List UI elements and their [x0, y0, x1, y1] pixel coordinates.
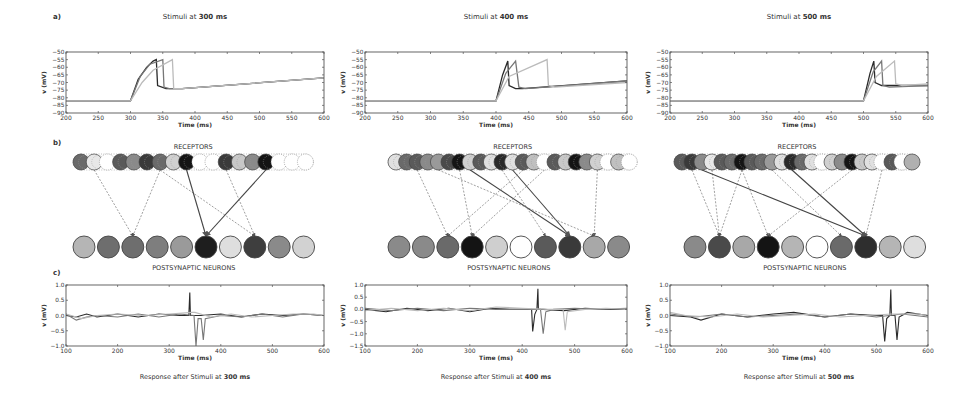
y-tick-label: −65 [656, 72, 669, 78]
figure: a) b) c) Stimuli at 300 ms20025030035040… [0, 0, 971, 404]
synapse-connection [94, 170, 133, 236]
x-tick-label: 300 [425, 114, 437, 121]
y-tick-label: −65 [351, 72, 364, 78]
y-tick-label: −80 [351, 95, 364, 101]
x-tick-label: 400 [793, 114, 805, 121]
y-tick-label: −90 [52, 110, 65, 116]
x-tick-label: 350 [157, 114, 169, 121]
x-tick-label: 600 [621, 347, 633, 354]
y-tick-label: −85 [52, 102, 65, 108]
y-tick-label: 1.0 [55, 282, 65, 288]
x-tick-label: 500 [254, 114, 266, 121]
synapse-connection [513, 170, 570, 236]
synapse-connection [133, 170, 160, 236]
y-tick-label: −1.0 [349, 331, 363, 337]
y-tick-label: −80 [656, 95, 669, 101]
series-line [670, 61, 928, 101]
chart-c1: 1002003004005006001.00.50.0−0.5−1.0Time … [40, 282, 330, 381]
postsynaptic-neuron [268, 236, 290, 258]
x-tick-label: 600 [318, 347, 330, 354]
synapse-connection [594, 170, 597, 236]
charts-layer: Stimuli at 300 ms20025030035040045050055… [40, 13, 934, 381]
x-tick-label: 200 [716, 347, 728, 354]
x-tick-label: 500 [556, 114, 568, 121]
y-tick-label: 0.5 [354, 294, 364, 300]
chart-caption: Response after Stimuli at 300 ms [140, 373, 251, 381]
receptors-label: RECEPTORS [174, 143, 213, 151]
synapse-connection [712, 170, 719, 236]
receptor [297, 154, 313, 170]
synapse-connection [792, 170, 866, 236]
chart-a3: Stimuli at 500 ms20025030035040045050055… [644, 13, 934, 128]
postsynaptic-neuron [583, 236, 605, 258]
postsynaptic-neuron [879, 236, 901, 258]
postsynaptic-neuron [146, 236, 168, 258]
y-tick-label: −55 [351, 57, 364, 63]
postsynaptic-neuron [782, 236, 804, 258]
postsynaptic-neuron [904, 236, 926, 258]
postsynaptic-neuron [293, 236, 315, 258]
axes-frame [66, 52, 324, 113]
y-tick-label: −1.0 [50, 343, 64, 349]
x-tick-label: 400 [516, 347, 528, 354]
x-axis-label: Time (ms) [782, 121, 816, 128]
x-tick-label: 250 [697, 114, 709, 121]
x-tick-label: 600 [922, 114, 934, 121]
x-tick-label: 400 [215, 347, 227, 354]
y-axis-label: v (mV) [339, 71, 346, 94]
x-tick-label: 350 [458, 114, 470, 121]
x-axis-label: Time (ms) [479, 354, 513, 361]
chart-caption: Response after Stimuli at 500 ms [744, 373, 855, 381]
y-tick-label: −1.0 [654, 343, 668, 349]
x-tick-label: 350 [761, 114, 773, 121]
x-tick-label: 450 [222, 114, 234, 121]
postsynaptic-neuron [73, 236, 95, 258]
x-tick-label: 200 [112, 347, 124, 354]
postsynaptic-neuron [486, 236, 508, 258]
y-tick-label: 0.5 [659, 297, 669, 303]
x-tick-label: 500 [858, 114, 870, 121]
series-line [365, 61, 627, 101]
series-line [365, 60, 627, 101]
y-tick-label: −0.5 [654, 328, 668, 334]
axes-frame [670, 52, 928, 113]
x-tick-label: 500 [267, 347, 279, 354]
postsynaptic-neuron [830, 236, 852, 258]
series-group [365, 289, 627, 334]
postsynaptic-label: POSTSYNAPTIC NEURONS [467, 264, 550, 272]
x-tick-label: 400 [819, 347, 831, 354]
y-tick-label: −85 [351, 102, 364, 108]
postsynaptic-neuron [171, 236, 193, 258]
y-tick-label: −70 [656, 80, 669, 86]
synapse-connection [206, 170, 266, 236]
x-tick-label: 300 [163, 347, 175, 354]
network-diagram-b3: RECEPTORSPOSTSYNAPTIC NEURONS [674, 143, 926, 272]
synapse-connection [502, 170, 545, 236]
chart-title: Stimuli at 400 ms [464, 13, 528, 21]
synapse-connection [768, 170, 852, 236]
series-line [365, 289, 627, 332]
y-tick-label: 1.0 [354, 282, 364, 288]
x-tick-label: 500 [569, 347, 581, 354]
x-axis-label: Time (ms) [479, 121, 513, 128]
y-tick-label: 0.5 [55, 297, 65, 303]
x-tick-label: 250 [392, 114, 404, 121]
y-tick-label: −85 [656, 102, 669, 108]
postsynaptic-neuron [219, 236, 241, 258]
panel-label-c: c) [53, 269, 60, 277]
synapse-connection [719, 170, 742, 236]
postsynaptic-neuron [510, 236, 532, 258]
synapse-connection [742, 170, 768, 236]
postsynaptic-neuron [708, 236, 730, 258]
y-tick-label: −60 [52, 64, 65, 70]
series-group [365, 60, 627, 101]
x-tick-label: 600 [621, 114, 633, 121]
synapse-connection [438, 170, 594, 236]
y-axis-label: v (mV) [644, 304, 651, 327]
postsynaptic-neuron [757, 236, 779, 258]
chart-title: Stimuli at 300 ms [163, 13, 227, 21]
postsynaptic-label: POSTSYNAPTIC NEURONS [763, 264, 846, 272]
y-tick-label: 0.0 [354, 306, 364, 312]
chart-caption: Response after Stimuli at 400 ms [441, 373, 552, 381]
postsynaptic-neuron [388, 236, 410, 258]
